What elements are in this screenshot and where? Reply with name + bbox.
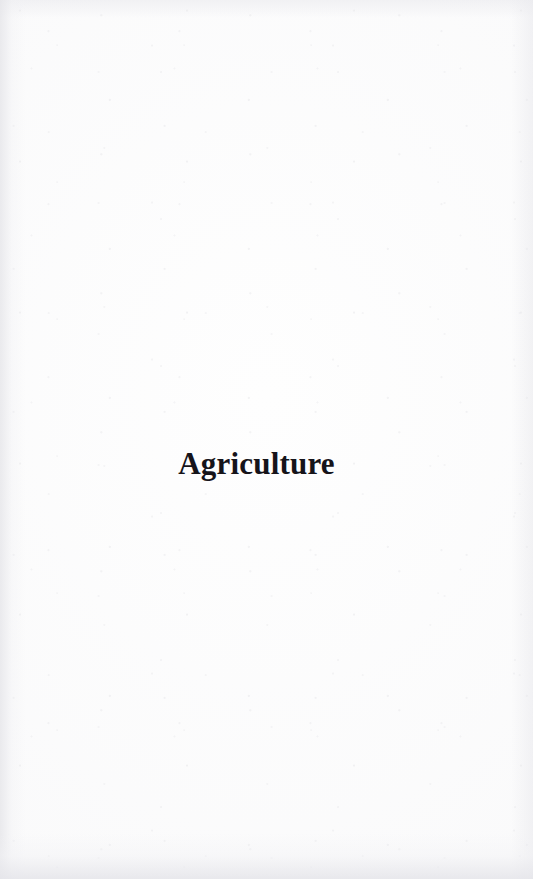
section-title-block: Agriculture: [0, 424, 513, 504]
scan-edge-bottom: [0, 833, 533, 879]
scan-edge-top: [0, 0, 533, 18]
page-title: Agriculture: [178, 445, 335, 483]
scan-edge-right: [511, 0, 533, 879]
scanned-page: Agriculture: [0, 0, 533, 879]
